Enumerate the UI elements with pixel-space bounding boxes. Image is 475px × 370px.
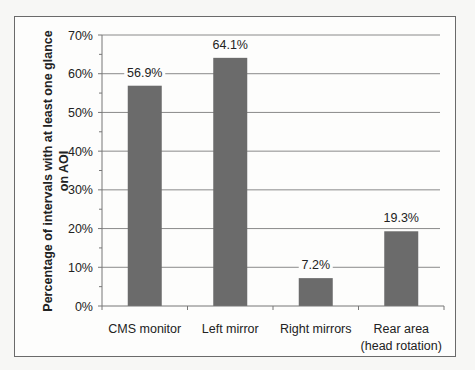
x-category-label: Rear area [373,322,429,336]
y-tick-labels: 0%10%20%30%40%50%60%70% [68,29,93,314]
y-tick-label: 40% [68,145,93,159]
value-label: 19.3% [384,211,419,225]
value-labels: 56.9%64.1%7.2%19.3% [124,37,422,272]
y-tick-label: 20% [68,222,93,236]
y-tick-label: 30% [68,183,93,197]
value-label: 56.9% [127,66,162,80]
y-tick-label: 0% [75,300,93,314]
y-tick-label: 10% [68,261,93,275]
x-category-label: Left mirror [202,322,259,336]
bar [299,278,333,306]
y-tick-label: 50% [68,106,93,120]
value-label: 64.1% [213,38,248,52]
x-category-labels: CMS monitorLeft mirrorRight mirrorsRear … [108,322,442,353]
y-tick-label: 70% [68,29,93,43]
x-category-label: (head rotation) [361,339,442,353]
y-axis-label: Percentage of intervals with at least on… [41,30,71,311]
bar [213,58,247,306]
bar [128,86,162,306]
bar-chart: 0%10%20%30%40%50%60%70% CMS monitorLeft … [0,0,475,370]
value-label: 7.2% [302,258,331,272]
x-category-label: Right mirrors [280,322,352,336]
bar [384,231,418,306]
bars [128,58,419,306]
y-tick-label: 60% [68,67,93,81]
x-category-label: CMS monitor [108,322,181,336]
